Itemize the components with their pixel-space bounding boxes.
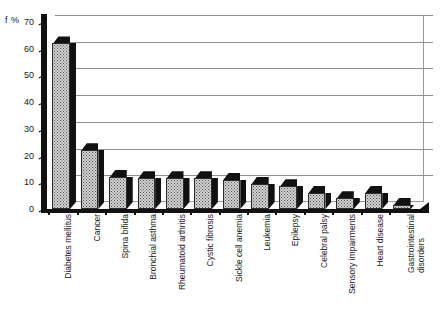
bar-front-face <box>138 178 156 209</box>
bar <box>52 43 70 209</box>
bar-front-face <box>194 178 212 209</box>
x-category-label: Spina bifida <box>121 214 131 258</box>
bar-side-face <box>127 177 133 209</box>
bar-side-face <box>212 178 218 209</box>
bar <box>308 193 326 209</box>
x-category-label: Cystic fibrosis <box>206 214 216 266</box>
bar-side-face <box>354 198 360 209</box>
x-category-label: Sensory impairments <box>348 214 358 294</box>
x-category-label: Epilepsy <box>291 214 301 246</box>
bar-front-face <box>81 150 99 209</box>
y-tick-label: 70 <box>14 17 34 27</box>
bar-front-face <box>308 193 326 209</box>
gridline <box>55 122 433 123</box>
x-category-label: Gastrointestinal disorders <box>407 214 426 273</box>
y-tick-label: 30 <box>14 124 34 134</box>
y-tick-label: 20 <box>14 151 34 161</box>
bar-side-face <box>70 43 76 209</box>
bar <box>81 150 99 209</box>
bar-front-face <box>251 184 269 209</box>
bar-front-face <box>279 186 297 209</box>
bar-side-face <box>269 184 275 209</box>
x-category-label: Sickle cell anemia <box>235 214 245 282</box>
bar-front-face <box>223 180 241 209</box>
bar-side-face <box>184 178 190 209</box>
bar <box>194 178 212 209</box>
x-category-label: Leukemia <box>263 214 273 251</box>
bar <box>336 198 354 209</box>
bar-side-face <box>98 150 104 209</box>
x-category-label: Cancer <box>93 214 103 241</box>
bar-side-face <box>382 193 388 209</box>
bar <box>109 177 127 209</box>
gridline <box>55 15 433 16</box>
x-axis-category-labels: Diabetes mellitusCancerSpina bifidaBronc… <box>46 214 426 322</box>
gridline <box>55 68 433 69</box>
x-category-label: Rheumatoid arthritis <box>178 214 188 290</box>
bar <box>279 186 297 209</box>
bar <box>251 184 269 209</box>
bar-front-face <box>336 198 354 209</box>
plot-area <box>46 22 415 209</box>
bar-side-face <box>155 178 161 209</box>
bar-side-face <box>240 180 246 209</box>
gridline <box>55 42 433 43</box>
bar <box>223 180 241 209</box>
y-tick-label: 50 <box>14 70 34 80</box>
bar-side-face <box>297 186 303 209</box>
bar-chart: f % 010203040506070 Diabetes mellitusCan… <box>0 0 440 322</box>
bar <box>166 178 184 209</box>
bar-side-face <box>325 193 331 209</box>
y-tick-label: 10 <box>14 177 34 187</box>
gridline <box>55 95 433 96</box>
x-axis-baseline <box>41 209 424 213</box>
y-tick-label: 40 <box>14 97 34 107</box>
gridline <box>55 149 433 150</box>
y-axis-line <box>46 14 47 210</box>
x-category-label: Heart disease <box>376 214 386 266</box>
bar-front-face <box>166 178 184 209</box>
bar-front-face <box>52 43 70 209</box>
x-category-label: Bronchial asthma <box>149 214 159 280</box>
x-category-label: Celebral palsy <box>320 214 330 268</box>
bar-front-face <box>365 193 383 209</box>
x-axis-baseline-side <box>415 202 429 213</box>
y-axis-tick-labels: 010203040506070 <box>12 0 34 322</box>
bar <box>365 193 383 209</box>
bar <box>138 178 156 209</box>
x-category-label: Diabetes mellitus <box>64 214 74 279</box>
y-tick-label: 0 <box>14 204 34 214</box>
bar-front-face <box>109 177 127 209</box>
y-tick-label: 60 <box>14 44 34 54</box>
